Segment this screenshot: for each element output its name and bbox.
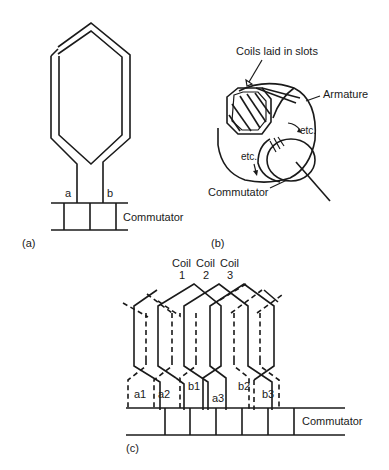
panel-c-lap-winding: Coil Coil Coil 1 2 3 [123,257,363,454]
panel-a-single-coil: a b Commutator (a) [22,23,184,249]
armature-label: Armature [323,88,368,100]
coil-inner-conductor [58,31,122,164]
coil-outer-conductor [58,23,130,203]
coil-3-heading: Coil [220,257,239,269]
terminal-a3: a3 [212,392,224,404]
caption-b: (b) [211,237,224,249]
panel-b-armature: Coils laid in slots Armature [208,45,368,249]
coil-3-number: 3 [227,269,233,281]
commutator-label-c: Commutator [302,415,363,427]
coil-1-number: 1 [179,269,185,281]
terminal-a2: a2 [158,388,170,400]
coil-2-number: 2 [203,269,209,281]
caption-a: (a) [22,237,35,249]
terminal-b3: b3 [262,388,274,400]
winding-top-overhangs [134,284,278,313]
armature-leader-line [306,96,320,101]
coils-leader-line [249,60,262,82]
terminal-b2: b2 [238,380,250,392]
armature-winding-figure: a b Commutator (a) Coils laid in slots [0,0,389,470]
terminal-a1: a1 [134,388,146,400]
commutator-label-a: Commutator [123,211,184,223]
terminal-a-label: a [65,187,72,199]
coil-1-heading: Coil [172,257,191,269]
winding-bottom-crossings [128,360,279,410]
winding-coil-sides [134,313,274,360]
etc-lower-label: etc. [241,151,257,162]
coils-laid-in-slots-label: Coils laid in slots [236,45,318,57]
terminal-b1: b1 [188,380,200,392]
terminal-b-label: b [107,187,113,199]
armature-slots [227,88,300,134]
winding-top-dashed [123,284,282,317]
caption-c: (c) [126,442,139,454]
commutator-a [51,203,128,230]
coil-2-heading: Coil [196,257,215,269]
rotation-arrow-upper [288,123,300,130]
commutator-cylinder [258,137,315,182]
arrowhead-icon [253,170,258,176]
etc-upper-label: etc. [300,125,316,136]
commutator-label-b: Commutator [208,186,269,198]
